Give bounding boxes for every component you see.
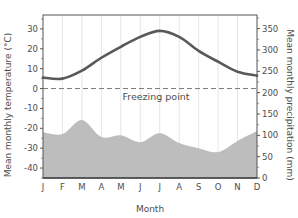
right-tick-label: 150 bbox=[262, 109, 278, 119]
x-axis: JFMAMJJASOND bbox=[41, 178, 261, 192]
left-y-axis: -40-30-20-100102030 bbox=[24, 19, 43, 178]
climate-chart: Freezing point -40-30-20-100102030 05010… bbox=[0, 0, 298, 218]
month-tick-label: M bbox=[78, 182, 85, 192]
right-tick-label: 0 bbox=[262, 173, 267, 183]
right-tick-label: 50 bbox=[262, 152, 273, 162]
month-tick-label: J bbox=[41, 182, 45, 192]
precipitation-area bbox=[43, 120, 257, 178]
left-tick-label: -10 bbox=[24, 103, 38, 113]
month-tick-label: D bbox=[254, 182, 261, 192]
right-tick-label: 350 bbox=[262, 24, 278, 34]
right-y-axis: 050100150200250300350 bbox=[257, 18, 278, 183]
right-tick-label: 100 bbox=[262, 130, 278, 140]
month-tick-label: F bbox=[60, 182, 65, 192]
left-tick-label: 30 bbox=[27, 24, 38, 34]
left-tick-label: 0 bbox=[33, 84, 38, 94]
right-tick-label: 300 bbox=[262, 45, 278, 55]
x-axis-title: Month bbox=[136, 204, 164, 214]
temperature-line bbox=[43, 31, 257, 79]
month-tick-label: J bbox=[157, 182, 161, 192]
month-tick-label: N bbox=[234, 182, 240, 192]
month-tick-label: O bbox=[215, 182, 222, 192]
right-tick-label: 200 bbox=[262, 88, 278, 98]
left-tick-label: 10 bbox=[27, 64, 38, 74]
right-y-axis-title: Mean monthly precipitation (mm) bbox=[285, 29, 295, 180]
left-y-axis-title: Mean monthly temperature (°C) bbox=[3, 33, 13, 178]
month-tick-label: A bbox=[176, 182, 182, 192]
month-tick-label: J bbox=[138, 182, 142, 192]
left-tick-label: -40 bbox=[24, 163, 38, 173]
left-tick-label: -30 bbox=[24, 143, 38, 153]
left-tick-label: -20 bbox=[24, 123, 38, 133]
month-tick-label: S bbox=[196, 182, 201, 192]
freezing-point-label: Freezing point bbox=[122, 91, 189, 102]
left-tick-label: 20 bbox=[27, 44, 38, 54]
month-tick-label: A bbox=[98, 182, 104, 192]
month-tick-label: M bbox=[117, 182, 124, 192]
right-tick-label: 250 bbox=[262, 66, 278, 76]
